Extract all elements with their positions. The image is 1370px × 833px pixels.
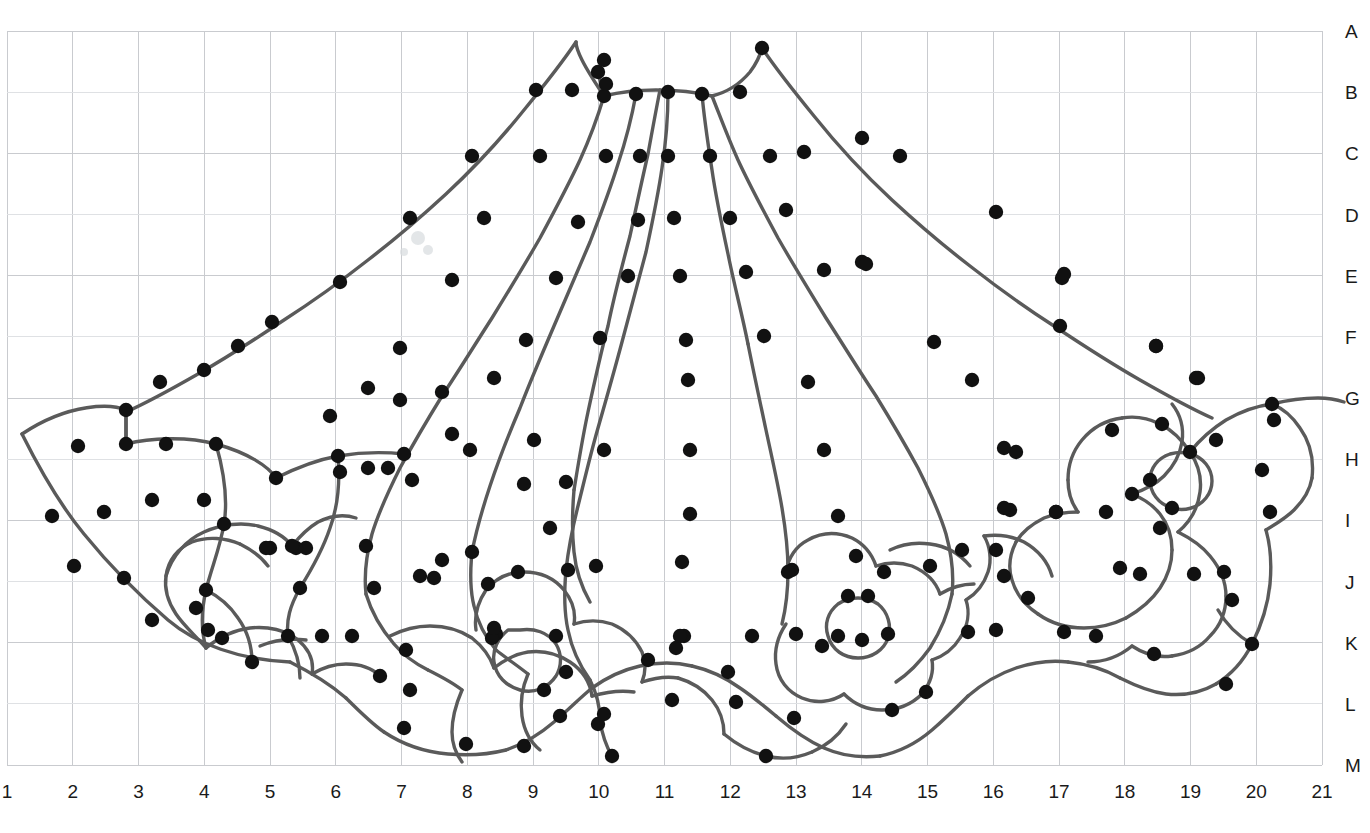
pin-dot xyxy=(861,589,875,603)
pin-dot xyxy=(763,149,777,163)
pin-dot xyxy=(367,581,381,595)
paper-speck xyxy=(400,248,408,256)
pin-dot xyxy=(599,77,613,91)
pin-dot xyxy=(723,211,737,225)
pin-dot xyxy=(463,443,477,457)
pin-dot xyxy=(1099,505,1113,519)
row-label: M xyxy=(1345,755,1361,776)
pin-dot xyxy=(745,629,759,643)
pin-dot xyxy=(393,341,407,355)
pin-dot xyxy=(605,749,619,763)
pin-dot xyxy=(519,333,533,347)
pin-dot xyxy=(593,331,607,345)
pin-dot xyxy=(923,559,937,573)
pin-dot xyxy=(1143,473,1157,487)
pin-dot xyxy=(597,53,611,67)
pin-dot xyxy=(661,85,675,99)
column-label: 20 xyxy=(1246,781,1267,802)
row-label: K xyxy=(1345,633,1358,654)
pin-dot xyxy=(373,669,387,683)
pin-dot xyxy=(801,375,815,389)
pin-dot xyxy=(755,41,769,55)
pin-dot xyxy=(881,627,895,641)
column-label: 12 xyxy=(720,781,741,802)
pin-dot xyxy=(533,149,547,163)
pin-dot xyxy=(459,737,473,751)
pin-dot xyxy=(71,439,85,453)
pin-dot xyxy=(445,427,459,441)
pin-dot xyxy=(1021,591,1035,605)
pin-dot xyxy=(565,83,579,97)
column-label: 5 xyxy=(265,781,276,802)
pin-dot xyxy=(1263,505,1277,519)
pin-dot xyxy=(841,589,855,603)
pin-dot xyxy=(1267,413,1281,427)
pin-dot xyxy=(199,583,213,597)
pin-dot xyxy=(543,521,557,535)
pin-dot xyxy=(293,581,307,595)
pin-dot xyxy=(817,443,831,457)
pin-dot xyxy=(885,703,899,717)
pin-dot xyxy=(153,375,167,389)
pin-dot xyxy=(435,553,449,567)
pin-dot xyxy=(427,571,441,585)
pin-dot xyxy=(927,335,941,349)
column-label: 13 xyxy=(785,781,806,802)
pin-dot xyxy=(561,563,575,577)
pin-dot xyxy=(1209,433,1223,447)
pin-dot xyxy=(1189,371,1203,385)
pin-dot xyxy=(679,333,693,347)
pin-dot xyxy=(217,517,231,531)
pin-dot xyxy=(997,569,1011,583)
pin-dot xyxy=(831,509,845,523)
pin-dot xyxy=(815,639,829,653)
pin-dot xyxy=(597,707,611,721)
pin-dot xyxy=(511,565,525,579)
pin-dot xyxy=(641,653,655,667)
pin-dot xyxy=(673,629,687,643)
pin-dot xyxy=(1053,319,1067,333)
pin-dot xyxy=(1153,521,1167,535)
pin-dot xyxy=(631,213,645,227)
row-label: D xyxy=(1345,205,1359,226)
row-label: G xyxy=(1345,388,1360,409)
pattern-sheet: 123456789101112131415161718192021 ABCDEF… xyxy=(0,0,1370,833)
lace-pattern-diagram: 123456789101112131415161718192021 ABCDEF… xyxy=(0,0,1370,833)
pin-dot xyxy=(361,461,375,475)
pin-dot xyxy=(323,409,337,423)
pin-dot xyxy=(1049,505,1063,519)
pin-dot xyxy=(559,665,573,679)
row-label: E xyxy=(1345,266,1358,287)
pin-dot xyxy=(333,275,347,289)
pin-dot xyxy=(393,393,407,407)
pin-dot xyxy=(405,473,419,487)
pin-dot xyxy=(1155,417,1169,431)
pin-dot xyxy=(361,381,375,395)
pin-dot xyxy=(621,269,635,283)
pin-dot xyxy=(333,465,347,479)
pin-dot xyxy=(413,569,427,583)
pin-dot xyxy=(269,471,283,485)
pin-dot xyxy=(1057,267,1071,281)
pin-dot xyxy=(779,203,793,217)
column-label: 9 xyxy=(528,781,539,802)
pin-dot xyxy=(1113,561,1127,575)
column-label: 2 xyxy=(68,781,79,802)
pin-dot xyxy=(481,577,495,591)
pin-dot xyxy=(119,403,133,417)
column-label: 3 xyxy=(133,781,144,802)
pin-dot xyxy=(465,149,479,163)
column-label: 21 xyxy=(1311,781,1332,802)
pin-dot xyxy=(599,149,613,163)
pin-dot xyxy=(403,683,417,697)
pin-dot xyxy=(1057,625,1071,639)
pin-dot xyxy=(45,509,59,523)
pin-dot xyxy=(529,83,543,97)
pin-dot xyxy=(855,131,869,145)
pin-dot xyxy=(1089,629,1103,643)
pin-dot xyxy=(1149,339,1163,353)
pin-dot xyxy=(989,543,1003,557)
pin-dot xyxy=(435,385,449,399)
pin-dot xyxy=(955,543,969,557)
pin-dot xyxy=(345,629,359,643)
